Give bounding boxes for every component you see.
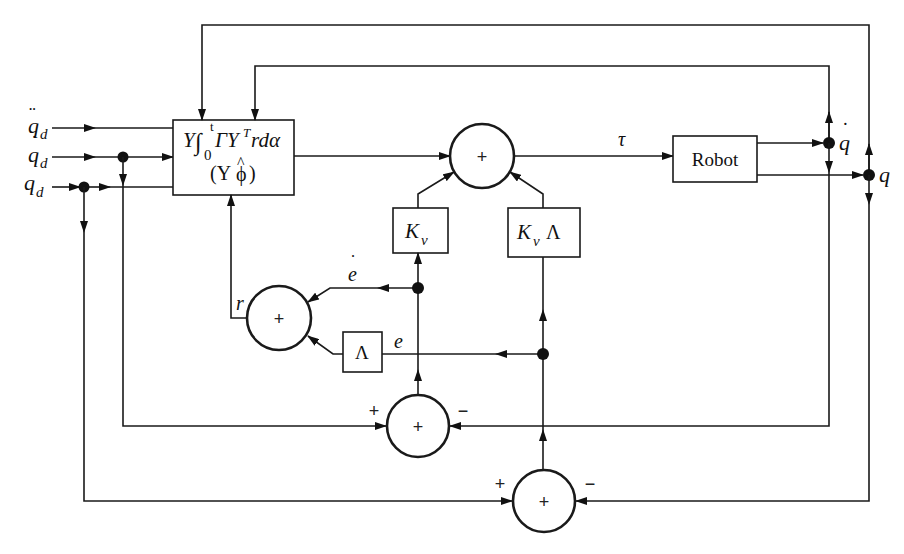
label-q: q [879,162,890,187]
svg-text:d: d [40,126,48,142]
wire-kv-to-main-sum [418,172,454,208]
feedback-q-dot-to-adaptive [255,66,829,143]
svg-text:¨: ¨ [29,103,36,125]
svg-text:ΓY: ΓY [214,128,241,152]
wire-qd-dot-to-velocity-sum [123,157,386,426]
svg-text:+: + [477,147,488,167]
main-summing-junction: + [450,124,514,188]
svg-text:Λ: Λ [546,221,561,243]
lambda-gain-block: Λ [343,332,382,372]
svg-text:+: + [539,492,550,512]
svg-text:^: ^ [237,154,245,171]
wire-kv-lambda-to-main-sum [510,172,543,208]
svg-text:Robot: Robot [692,149,739,170]
svg-text:d: d [36,184,44,200]
kv-lambda-gain-block: K v Λ [508,208,580,257]
svg-text:0: 0 [204,147,212,163]
svg-text:T: T [243,125,251,140]
svg-text:+: + [495,474,506,494]
wire-e-dot [308,253,418,395]
label-e-dot: e ˙ [348,252,357,285]
label-q-dot: q ˙ [839,119,850,155]
svg-text:∫: ∫ [193,129,203,157]
svg-text:v: v [533,233,540,249]
svg-text:t: t [210,119,214,134]
svg-text:˙: ˙ [842,119,849,141]
node-e-dot [412,282,424,294]
wire-q-to-position-sum [576,175,869,501]
svg-text:): ) [249,162,256,185]
kv-gain-block: K v [393,208,448,253]
svg-text:+: + [274,309,285,329]
svg-text:(Y: (Y [210,162,231,185]
label-qd: q d [24,170,44,200]
svg-text:v: v [421,232,428,248]
svg-text:+: + [413,417,424,437]
label-r: r [236,292,244,314]
adaptive-law-block: Y ∫ 0 t ΓY T rdα (Y ϕ ^ ) [173,119,294,195]
svg-text:˙: ˙ [31,132,38,154]
svg-text:K: K [516,220,532,244]
feedback-q-to-adaptive [202,25,869,175]
r-summing-junction: + [247,286,311,350]
svg-text:rdα: rdα [251,128,281,152]
label-e: e [394,330,403,352]
svg-text:d: d [40,155,48,171]
svg-text:Λ: Λ [355,342,369,363]
wire-q-dot-to-velocity-sum [450,143,829,426]
svg-text:+: + [369,401,380,421]
svg-text:−: − [585,474,596,494]
svg-text:−: − [458,401,469,421]
label-tau: τ [618,128,626,150]
svg-text:K: K [404,219,420,243]
svg-text:q: q [24,170,35,195]
robot-block: Robot [673,136,757,182]
wire-lambda-to-r-sum [308,336,343,354]
node-e [537,348,549,360]
control-block-diagram: q ¨ d q ˙ d q d Y ∫ 0 t ΓY T rdα (Y ϕ ^ … [0,0,904,554]
svg-text:˙: ˙ [350,252,356,272]
